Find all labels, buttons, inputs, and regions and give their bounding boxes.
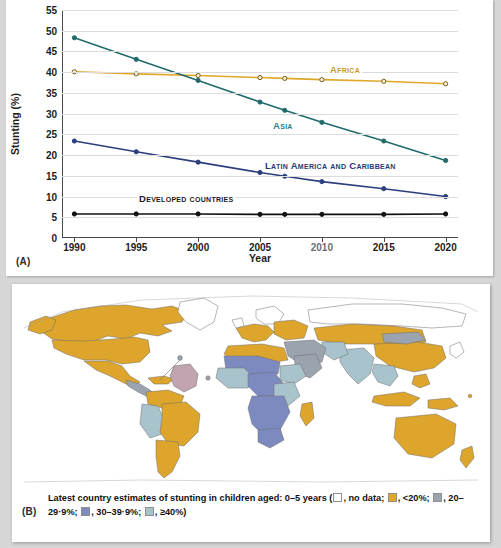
grid-line	[62, 197, 458, 198]
grid-line	[62, 134, 458, 135]
y-tick-label: 30	[46, 108, 57, 119]
data-point	[283, 76, 287, 80]
y-tick-label: 10	[46, 191, 57, 202]
grid-line	[62, 10, 458, 11]
data-point	[72, 139, 76, 143]
x-tick-label: 2000	[187, 242, 209, 253]
legend-label-4: , ≥40%)	[155, 507, 187, 517]
y-tick-label: 15	[46, 170, 57, 181]
region-indonesia	[372, 392, 420, 406]
data-point	[444, 82, 448, 86]
region-uk	[232, 318, 244, 328]
region-south-africa	[258, 428, 284, 448]
panel-a-chart: (A) Stunting (%) Year 051015202530354045…	[6, 0, 493, 276]
data-point	[283, 212, 287, 216]
panel-a-tag: (A)	[16, 256, 30, 267]
legend-label-1: , <20%;	[398, 493, 432, 503]
x-tick-label: 2005	[249, 242, 271, 253]
region-australia	[394, 414, 456, 458]
island-pacific	[468, 394, 472, 398]
region-southern-cone	[156, 440, 180, 478]
region-usa	[52, 337, 150, 364]
series-label-latin-america-and-caribbean: Latin America and Caribbean	[265, 160, 396, 171]
data-point	[444, 212, 448, 216]
region-se-asia	[372, 364, 398, 386]
data-point	[320, 212, 324, 216]
data-point	[444, 158, 448, 162]
x-tick-label: 2020	[435, 242, 457, 253]
y-tick-label: 45	[46, 46, 57, 57]
region-madagascar	[300, 402, 314, 426]
data-point	[196, 78, 200, 82]
data-point	[283, 108, 287, 112]
series-label-africa: Africa	[328, 64, 362, 75]
data-point	[258, 212, 262, 216]
data-point	[382, 79, 386, 83]
grid-line	[62, 155, 458, 156]
figure-page: (A) Stunting (%) Year 051015202530354045…	[0, 0, 501, 548]
data-point	[134, 212, 138, 216]
grid-line	[62, 93, 458, 94]
grid-line	[62, 114, 458, 115]
y-tick-label: 5	[51, 212, 57, 223]
region-russia	[308, 304, 466, 328]
map-caption: Latest country estimates of stunting in …	[48, 492, 480, 519]
grid-line	[62, 31, 458, 32]
series-line-asia	[74, 38, 445, 161]
y-tick-label: 50	[46, 25, 57, 36]
ocean-outline-antarctic	[24, 480, 478, 482]
legend-swatch-4	[145, 507, 154, 516]
data-point	[382, 187, 386, 191]
legend-swatch-3	[81, 507, 90, 516]
region-new-zealand	[460, 446, 474, 468]
chart-series-svg	[62, 10, 458, 238]
data-point	[320, 180, 324, 184]
grid-line	[62, 176, 458, 177]
region-png	[428, 398, 458, 410]
region-caribbean-callout	[170, 364, 198, 392]
series-label-asia: Asia	[271, 120, 295, 131]
y-axis-label: Stunting (%)	[9, 93, 21, 155]
y-tick-label: 25	[46, 129, 57, 140]
y-tick-label: 35	[46, 87, 57, 98]
world-map-svg	[22, 292, 480, 488]
data-point	[382, 212, 386, 216]
y-tick-label: 55	[46, 5, 57, 16]
y-tick-label: 40	[46, 67, 57, 78]
data-point	[320, 120, 324, 124]
y-tick-label: 20	[46, 150, 57, 161]
panel-b-map: (B)	[12, 284, 490, 542]
data-point	[258, 100, 262, 104]
line-chart-plot-area: 0510152025303540455055199019952000200520…	[62, 10, 458, 238]
x-tick-label: 2010	[311, 242, 333, 253]
data-point	[134, 150, 138, 154]
x-tick-label: 1990	[63, 242, 85, 253]
data-point	[196, 212, 200, 216]
x-axis-label: Year	[249, 252, 271, 264]
region-eastern-europe	[274, 320, 308, 340]
data-point	[382, 139, 386, 143]
grid-line	[62, 217, 458, 218]
data-point	[72, 212, 76, 216]
data-point	[258, 75, 262, 79]
legend-swatch-0	[333, 493, 342, 502]
region-canada	[42, 305, 188, 342]
region-greenland	[178, 298, 218, 330]
legend-swatch-2	[433, 493, 442, 502]
data-point	[134, 57, 138, 61]
data-point	[72, 36, 76, 40]
data-point	[258, 170, 262, 174]
island-atlantic	[206, 376, 210, 380]
data-point	[196, 160, 200, 164]
grid-line	[62, 51, 458, 52]
data-point	[320, 78, 324, 82]
region-caribbean	[148, 376, 174, 384]
grid-line	[62, 72, 458, 73]
y-tick-label: 0	[51, 233, 57, 244]
legend-swatch-1	[388, 493, 397, 502]
x-tick-label: 1995	[125, 242, 147, 253]
x-tick-label: 2015	[373, 242, 395, 253]
region-brazil	[160, 402, 200, 446]
legend-label-3: , 30–39·9%;	[91, 507, 144, 517]
legend-label-0: , no data;	[343, 493, 386, 503]
